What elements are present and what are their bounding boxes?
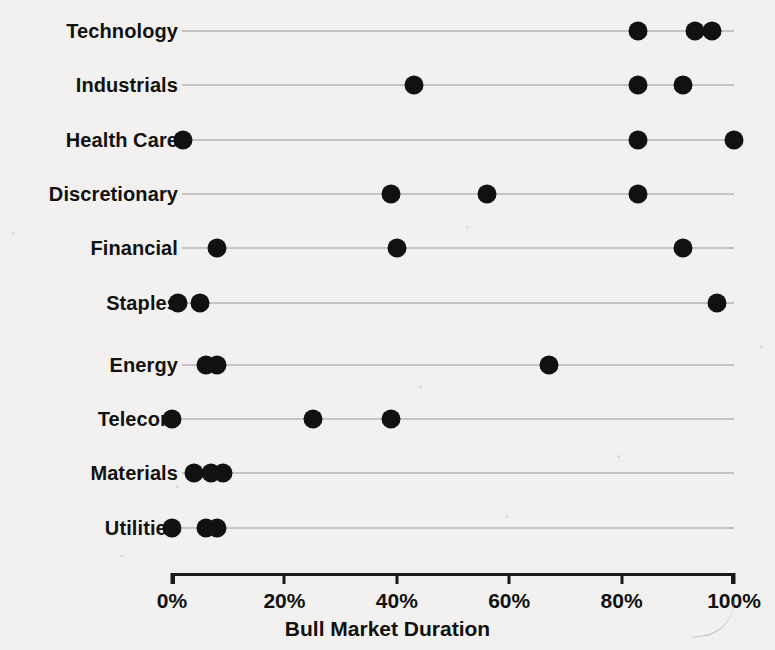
gridline xyxy=(182,139,734,140)
paper-speckle xyxy=(505,515,508,518)
category-label-discretionary: Discretionary xyxy=(49,182,178,205)
gridline xyxy=(182,419,734,420)
gridline xyxy=(182,248,734,249)
data-point[interactable] xyxy=(207,355,226,374)
data-point[interactable] xyxy=(702,22,721,41)
x-axis: 0%20%40%60%80%100% xyxy=(0,573,775,574)
gridline xyxy=(182,473,734,474)
data-point[interactable] xyxy=(382,410,401,429)
x-axis-tick xyxy=(733,573,736,584)
x-axis-tick xyxy=(395,573,398,584)
x-axis-tick xyxy=(508,573,511,584)
data-point[interactable] xyxy=(213,464,232,483)
paper-speckle xyxy=(617,455,620,458)
x-axis-tick-label: 40% xyxy=(376,589,418,613)
gridline xyxy=(182,31,734,32)
x-axis-line xyxy=(172,573,734,576)
data-point[interactable] xyxy=(725,130,744,149)
data-point[interactable] xyxy=(539,355,558,374)
paper-speckle xyxy=(120,555,124,557)
data-point[interactable] xyxy=(629,22,648,41)
data-point[interactable] xyxy=(629,130,648,149)
dot-plot-chart: TechnologyIndustrialsHealth CareDiscreti… xyxy=(0,0,775,650)
category-label-financial: Financial xyxy=(90,237,178,260)
x-axis-title: Bull Market Duration xyxy=(0,617,775,641)
paper-speckle xyxy=(419,385,422,388)
data-point[interactable] xyxy=(168,293,187,312)
x-axis-tick-label: 100% xyxy=(707,589,761,613)
x-axis-tick-label: 80% xyxy=(601,589,643,613)
data-point[interactable] xyxy=(303,410,322,429)
gridline xyxy=(182,193,734,194)
x-axis-tick xyxy=(283,573,286,584)
data-point[interactable] xyxy=(629,184,648,203)
gridline xyxy=(182,85,734,86)
x-axis-tick xyxy=(171,573,174,584)
data-point[interactable] xyxy=(174,130,193,149)
paper-speckle xyxy=(12,232,15,235)
paper-speckle xyxy=(760,345,763,348)
data-point[interactable] xyxy=(674,76,693,95)
data-point[interactable] xyxy=(191,293,210,312)
paper-speckle xyxy=(466,226,469,229)
data-point[interactable] xyxy=(629,76,648,95)
x-axis-tick xyxy=(620,573,623,584)
data-point[interactable] xyxy=(477,184,496,203)
data-point[interactable] xyxy=(207,239,226,258)
data-point[interactable] xyxy=(163,518,182,537)
gridline xyxy=(182,364,734,365)
data-point[interactable] xyxy=(404,76,423,95)
category-label-industrials: Industrials xyxy=(76,74,178,97)
data-point[interactable] xyxy=(708,293,727,312)
category-label-energy: Energy xyxy=(110,353,178,376)
data-point[interactable] xyxy=(382,184,401,203)
category-label-technology: Technology xyxy=(66,20,178,43)
data-point[interactable] xyxy=(163,410,182,429)
x-axis-tick-label: 0% xyxy=(157,589,187,613)
data-point[interactable] xyxy=(387,239,406,258)
data-point[interactable] xyxy=(207,518,226,537)
x-axis-tick-label: 20% xyxy=(263,589,305,613)
gridline xyxy=(182,302,734,303)
data-point[interactable] xyxy=(674,239,693,258)
gridline xyxy=(182,527,734,528)
category-label-materials: Materials xyxy=(90,462,178,485)
category-label-health-care: Health Care xyxy=(66,128,178,151)
paper-speckle xyxy=(176,485,179,488)
x-axis-tick-label: 60% xyxy=(488,589,530,613)
